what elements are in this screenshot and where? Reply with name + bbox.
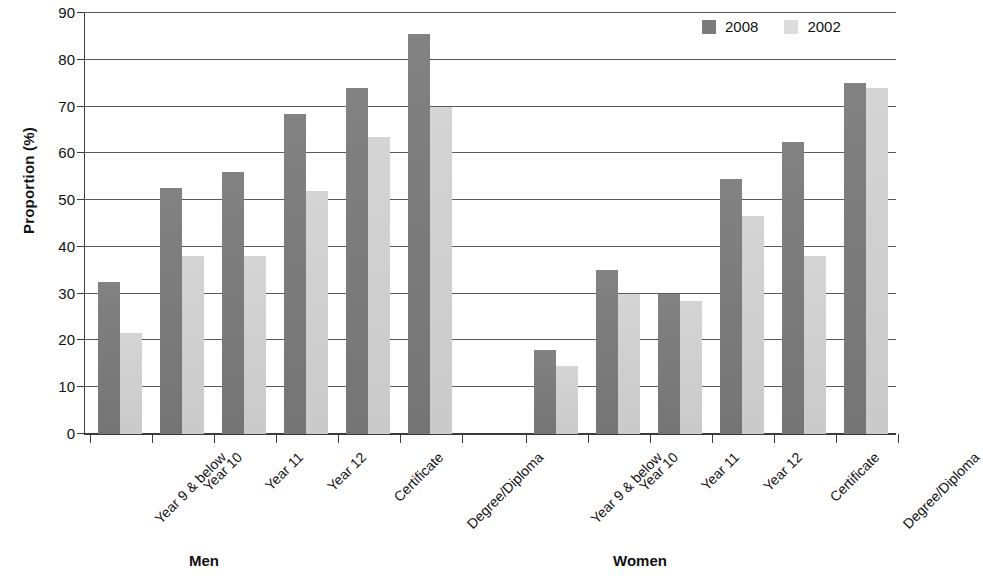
- bar-women-certificate-2002: [804, 256, 826, 434]
- y-axis-title: Proportion (%): [20, 91, 37, 271]
- group-label-men: Men: [189, 552, 219, 569]
- bar-women-year-9-below-2002: [556, 366, 578, 434]
- legend-label-2008: 2008: [725, 18, 758, 35]
- y-tick-mark: [77, 339, 84, 340]
- bar-women-year-10-2008: [596, 270, 618, 434]
- x-tick-mark: [588, 434, 589, 443]
- y-tick-label: 40: [58, 237, 75, 254]
- bar-women-year-11-2002: [680, 301, 702, 434]
- legend-swatch-2008-icon: [702, 20, 716, 34]
- y-tick-mark: [77, 386, 84, 387]
- x-tick-mark: [90, 434, 91, 443]
- x-tick-mark: [836, 434, 837, 443]
- bar-women-certificate-2008: [782, 142, 804, 434]
- bar-men-certificate-2002: [368, 137, 390, 434]
- x-axis-label: Degree/Diploma: [464, 449, 547, 532]
- legend: 2008 2002: [702, 18, 841, 35]
- bar-women-year-9-below-2008: [534, 350, 556, 434]
- x-tick-mark: [152, 434, 153, 443]
- bar-men-year-9-below-2008: [98, 282, 120, 434]
- bars-layer: [84, 13, 896, 434]
- y-tick-label: 80: [58, 50, 75, 67]
- x-axis-label-text: Degree/Diploma: [900, 449, 983, 532]
- x-tick-mark: [462, 434, 463, 443]
- x-axis-label-text: Year 11: [262, 449, 306, 493]
- x-axis-label: Year 12: [760, 449, 805, 494]
- plot-area: 0102030405060708090: [84, 13, 896, 434]
- bar-men-year-10-2008: [160, 188, 182, 434]
- bar-men-year-11-2008: [222, 172, 244, 434]
- bar-women-degree-diploma-2002: [866, 88, 888, 434]
- bar-women-year-10-2002: [618, 294, 640, 434]
- y-tick-label: 70: [58, 97, 75, 114]
- group-label-women: Women: [613, 552, 667, 569]
- x-axis-label-text: Certificate: [826, 449, 882, 505]
- bar-men-year-12-2008: [284, 114, 306, 434]
- y-tick-mark: [77, 433, 84, 434]
- x-tick-mark: [214, 434, 215, 443]
- bar-men-year-10-2002: [182, 256, 204, 434]
- y-tick-mark: [77, 12, 84, 13]
- x-tick-mark: [338, 434, 339, 443]
- y-tick-label: 90: [58, 4, 75, 21]
- y-tick-label: 0: [67, 425, 75, 442]
- x-tick-mark: [276, 434, 277, 443]
- y-tick-label: 50: [58, 191, 75, 208]
- y-tick-mark: [77, 199, 84, 200]
- bar-women-degree-diploma-2008: [844, 83, 866, 434]
- x-axis-label: Degree/Diploma: [900, 449, 983, 532]
- x-tick-mark: [400, 434, 401, 443]
- bar-men-degree-diploma-2002: [430, 107, 452, 434]
- x-tick-mark: [650, 434, 651, 443]
- bar-men-degree-diploma-2008: [408, 34, 430, 434]
- x-axis-label: Year 11: [698, 449, 742, 493]
- legend-item-2008: 2008: [702, 18, 758, 35]
- x-axis-label: Year 12: [324, 449, 369, 494]
- y-tick-mark: [77, 152, 84, 153]
- y-tick-label: 10: [58, 378, 75, 395]
- y-tick-mark: [77, 59, 84, 60]
- x-axis-label: Certificate: [390, 449, 446, 505]
- bar-men-year-12-2002: [306, 191, 328, 434]
- x-axis-label-text: Year 12: [760, 449, 805, 494]
- x-tick-mark: [526, 434, 527, 443]
- bar-men-year-9-below-2002: [120, 333, 142, 434]
- x-tick-mark: [898, 434, 899, 443]
- legend-item-2002: 2002: [784, 18, 840, 35]
- bar-women-year-12-2008: [720, 179, 742, 434]
- y-tick-label: 60: [58, 144, 75, 161]
- x-axis-label: Year 11: [262, 449, 306, 493]
- x-axis-label-text: Year 12: [324, 449, 369, 494]
- legend-label-2002: 2002: [807, 18, 840, 35]
- bar-women-year-11-2008: [658, 294, 680, 434]
- x-tick-mark: [712, 434, 713, 443]
- x-axis-label-text: Certificate: [390, 449, 446, 505]
- x-tick-mark: [774, 434, 775, 443]
- x-axis-label-text: Year 11: [698, 449, 742, 493]
- y-tick-mark: [77, 106, 84, 107]
- legend-swatch-2002-icon: [784, 20, 798, 34]
- x-axis-label-text: Degree/Diploma: [464, 449, 547, 532]
- x-axis-label: Certificate: [826, 449, 882, 505]
- bar-men-certificate-2008: [346, 88, 368, 434]
- y-tick-label: 30: [58, 284, 75, 301]
- bar-men-year-11-2002: [244, 256, 266, 434]
- y-tick-mark: [77, 246, 84, 247]
- bar-women-year-12-2002: [742, 216, 764, 434]
- y-tick-label: 20: [58, 331, 75, 348]
- y-tick-mark: [77, 293, 84, 294]
